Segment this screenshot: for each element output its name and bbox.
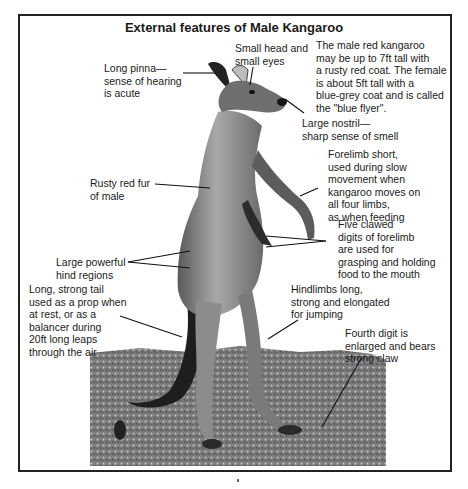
label-forelimb: Forelimb short, used during slow movemen… xyxy=(328,148,420,223)
label-nostril: Large nostril— sharp sense of smell xyxy=(302,117,398,142)
ground xyxy=(90,346,386,466)
label-hind: Large powerful hind regions xyxy=(56,256,125,281)
label-fourth-digit: Fourth digit is enlarged and bears stron… xyxy=(345,327,436,365)
label-tail: Long, strong tail used as a prop when at… xyxy=(29,283,126,358)
label-head: Small head and small eyes xyxy=(235,42,308,67)
label-fur: Rusty red fur of male xyxy=(90,177,150,202)
kangaroo-head xyxy=(208,62,287,113)
description-note: The male red kangaroo may be up to 7ft t… xyxy=(316,39,447,114)
label-hindlimbs: Hindlimbs long, strong and elongated for… xyxy=(291,283,390,321)
label-pinna: Long pinna— sense of hearing is acute xyxy=(104,62,182,100)
label-digits: Five clawed digits of forelimb are used … xyxy=(338,218,436,281)
print-speck xyxy=(237,479,239,482)
